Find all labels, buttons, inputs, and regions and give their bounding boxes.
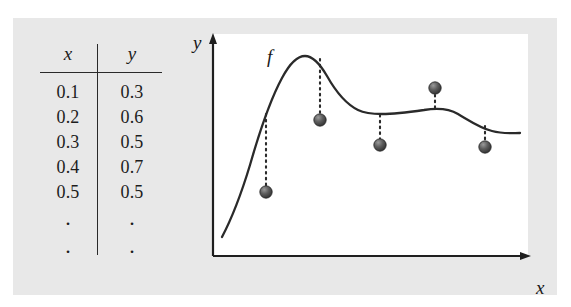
sample-point-3	[374, 115, 386, 151]
x-axis-arrowhead	[520, 252, 531, 260]
curve-label-f: f	[267, 46, 272, 68]
y-axis-arrowhead	[209, 33, 217, 44]
sample-point-2	[314, 59, 326, 126]
sample-dot	[260, 186, 272, 198]
sample-dot	[374, 139, 386, 151]
figure-container: x y 0.1 0.3 0.2 0.6 0.3 0.5 0.4 0.7 0.5 …	[0, 0, 571, 307]
plot-svg	[0, 0, 571, 307]
x-axis-label: x	[536, 277, 544, 299]
sample-dot	[479, 141, 491, 153]
function-curve	[222, 56, 520, 237]
curve-f	[222, 56, 520, 237]
sample-dot	[314, 114, 326, 126]
y-axis-label: y	[193, 32, 201, 54]
sample-dot	[429, 82, 441, 94]
sample-point-4	[429, 82, 441, 108]
